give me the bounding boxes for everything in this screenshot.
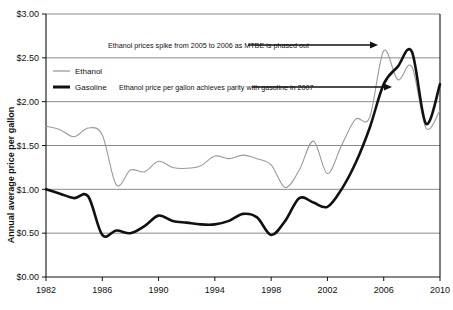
x-tick-label: 1994: [205, 285, 225, 295]
x-tick-label: 1998: [261, 285, 281, 295]
y-tick-label: $2.50: [16, 53, 39, 63]
x-axis-tick-labels: 19821986199019941998200220062010: [36, 277, 450, 295]
y-tick-label: $3.00: [16, 9, 39, 19]
price-comparison-line-chart: $3.00$2.50$2.00$1.50$1.00$0.50$0.00 1982…: [0, 0, 453, 310]
y-axis-tick-labels: $3.00$2.50$2.00$1.50$1.00$0.50$0.00: [16, 9, 46, 282]
series-line-ethanol: [46, 50, 440, 188]
x-tick-label: 2002: [317, 285, 337, 295]
y-tick-label: $0.00: [16, 272, 39, 282]
y-tick-label: $1.00: [16, 185, 39, 195]
y-tick-label: $2.00: [16, 97, 39, 107]
legend-label-ethanol: Ethanol: [75, 67, 102, 76]
y-tick-label: $0.50: [16, 228, 39, 238]
x-tick-label: 1990: [149, 285, 169, 295]
annotation-arrow-head: [370, 42, 378, 49]
chart-container: $3.00$2.50$2.00$1.50$1.00$0.50$0.00 1982…: [0, 0, 453, 310]
annotation-arrow-head: [384, 84, 392, 91]
chart-annotations: Ethanol prices spike from 2005 to 2006 a…: [108, 41, 392, 92]
chart-legend: EthanolGasoline: [53, 67, 107, 92]
data-series-lines: [46, 49, 440, 237]
legend-label-gasoline: Gasoline: [75, 83, 107, 92]
y-tick-label: $1.50: [16, 141, 39, 151]
x-tick-label: 2006: [374, 285, 394, 295]
y-axis-title: Annual average price per gallon: [6, 107, 16, 244]
x-tick-label: 2010: [430, 285, 450, 295]
x-tick-label: 1982: [36, 285, 56, 295]
x-tick-label: 1986: [92, 285, 112, 295]
